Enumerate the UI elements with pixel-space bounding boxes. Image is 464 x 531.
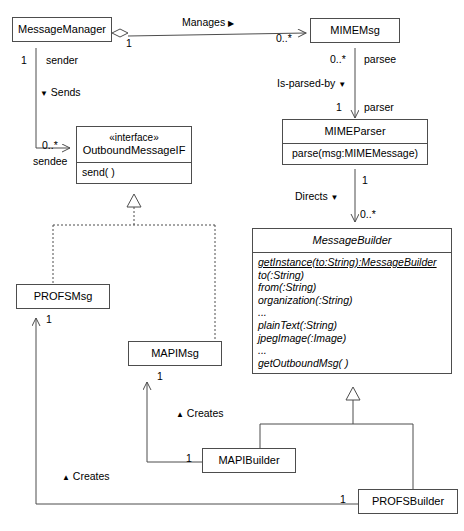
- mult-manages-target: 0..*: [276, 32, 292, 44]
- class-profs-builder[interactable]: PROFSBuilder: [358, 489, 458, 514]
- class-name-mapi-builder: MAPIBuilder: [203, 449, 295, 472]
- operation-parse: parse(msg:MIMEMessage): [288, 147, 422, 160]
- label-manages-text: Manages: [182, 16, 225, 28]
- mult-sends-target: 0..*: [42, 139, 58, 151]
- edge-generalization-builder: [260, 387, 413, 489]
- class-name-outbound-message-if: «interface» OutboundMessageIF: [77, 127, 191, 162]
- arrow-marker-manages: ▶: [228, 19, 234, 28]
- mult-parser: 1: [336, 101, 342, 113]
- arrow-marker-creates-mapi: ▲: [176, 410, 184, 419]
- mult-creates-mapi: 1: [186, 452, 192, 464]
- operations-outbound-message-if: send( ): [77, 162, 191, 183]
- class-name-mime-parser: MIMEParser: [283, 120, 427, 143]
- class-outbound-message-if[interactable]: «interface» OutboundMessageIF send( ): [76, 126, 192, 184]
- label-sends: ▼ Sends: [40, 86, 81, 100]
- class-title-outbound-message-if: OutboundMessageIF: [83, 144, 186, 156]
- label-sends-text: Sends: [51, 86, 81, 98]
- operation-jpeg-image: jpegImage(:Image): [258, 332, 446, 345]
- class-message-manager[interactable]: MessageManager: [12, 17, 112, 42]
- label-is-parsed-by-text: Is-parsed-by: [277, 77, 335, 89]
- operation-ellipsis-1: ...: [258, 306, 446, 319]
- mult-parsee: 0..*: [330, 53, 346, 65]
- operation-get-outbound-msg: getOutboundMsg( ): [258, 357, 446, 370]
- arrow-marker-creates-profs: ▲: [62, 473, 70, 482]
- operations-message-builder: getInstance(to:String):MessageBuilder to…: [253, 252, 451, 373]
- class-mime-parser[interactable]: MIMEParser parse(msg:MIMEMessage): [282, 119, 428, 165]
- mult-directs-source: 1: [362, 174, 368, 186]
- role-parser: parser: [364, 101, 394, 113]
- label-directs-text: Directs: [295, 190, 328, 202]
- class-name-profs-builder: PROFSBuilder: [359, 490, 457, 513]
- label-directs: Directs ▼: [295, 190, 339, 204]
- label-manages: Manages ▶: [182, 16, 234, 30]
- arrow-marker-directs: ▼: [331, 193, 339, 202]
- mult-manages-source: 1: [126, 37, 132, 49]
- label-is-parsed-by: Is-parsed-by ▼: [277, 77, 346, 91]
- class-profs-msg[interactable]: PROFSMsg: [16, 284, 110, 309]
- operation-get-instance: getInstance(to:String):MessageBuilder: [258, 256, 446, 269]
- edge-creates-mapi: [147, 382, 202, 462]
- class-name-message-builder: MessageBuilder: [253, 229, 451, 252]
- class-mime-msg[interactable]: MIMEMsg: [310, 18, 400, 43]
- arrow-marker-sends: ▼: [40, 89, 48, 98]
- mult-directs-target: 0..*: [360, 208, 376, 220]
- class-name-mapi-msg: MAPIMsg: [129, 342, 221, 365]
- edge-realization-outbound: [53, 194, 215, 341]
- mult-creates-profs: 1: [340, 493, 346, 505]
- label-creates-mapi-text: Creates: [187, 407, 224, 419]
- class-mapi-builder[interactable]: MAPIBuilder: [202, 448, 296, 473]
- role-parsee: parsee: [364, 53, 396, 65]
- mult-profs-msg-end: 1: [46, 313, 52, 325]
- label-creates-mapi: ▲ Creates: [176, 407, 224, 421]
- role-sendee: sendee: [33, 155, 67, 167]
- class-name-message-manager: MessageManager: [13, 18, 111, 41]
- arrow-marker-is-parsed-by: ▼: [338, 80, 346, 89]
- operation-send: send( ): [82, 166, 186, 179]
- class-message-builder[interactable]: MessageBuilder getInstance(to:String):Me…: [252, 228, 452, 374]
- operation-from: from(:String): [258, 281, 446, 294]
- mult-sends-source: 1: [21, 54, 27, 66]
- operation-to: to(:String): [258, 269, 446, 282]
- uml-class-diagram: MessageManager MIMEMsg «interface» Outbo…: [0, 0, 464, 531]
- role-sender: sender: [46, 54, 78, 66]
- operation-ellipsis-2: ...: [258, 344, 446, 357]
- operation-plain-text: plainText(:String): [258, 319, 446, 332]
- label-creates-profs: ▲ Creates: [62, 470, 110, 484]
- operation-organization: organization(:String): [258, 294, 446, 307]
- class-name-profs-msg: PROFSMsg: [17, 285, 109, 308]
- class-mapi-msg[interactable]: MAPIMsg: [128, 341, 222, 366]
- operations-mime-parser: parse(msg:MIMEMessage): [283, 143, 427, 164]
- class-name-mime-msg: MIMEMsg: [311, 19, 399, 42]
- label-creates-profs-text: Creates: [73, 470, 110, 482]
- stereotype-interface: «interface»: [81, 132, 187, 144]
- mult-mapi-msg-end: 1: [157, 370, 163, 382]
